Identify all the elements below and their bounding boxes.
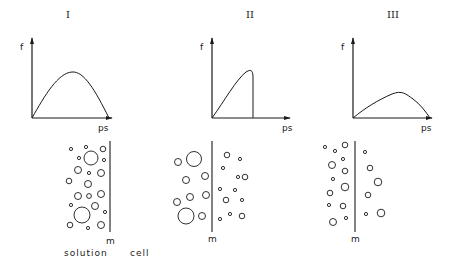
membrane-label: m xyxy=(351,234,360,244)
particles-panel-3 xyxy=(323,141,384,232)
x-axis-label: ps xyxy=(98,123,109,133)
solution-label: solution xyxy=(64,248,108,258)
distribution-curve xyxy=(32,72,109,118)
cell-label: cell xyxy=(130,248,150,258)
panel-1: I f ps xyxy=(20,9,112,133)
panel-numeral: II xyxy=(246,9,254,20)
diagram-canvas: I f ps II f ps III f ps m solution cell xyxy=(0,0,449,269)
y-axis-label: f xyxy=(341,42,345,52)
panel-3: III f ps xyxy=(341,9,432,133)
y-axis-label: f xyxy=(20,42,24,52)
panel-2: II f ps xyxy=(200,9,293,133)
distribution-curve xyxy=(212,70,253,118)
panel-numeral: III xyxy=(387,9,399,20)
membrane-label: m xyxy=(208,234,217,244)
particles-panel-2 xyxy=(174,141,248,232)
x-axis-label: ps xyxy=(282,123,293,133)
y-axis-label: f xyxy=(200,42,204,52)
panel-numeral: I xyxy=(66,9,70,20)
distribution-curve xyxy=(353,92,430,118)
x-axis-label: ps xyxy=(421,123,432,133)
particles-panel-1 xyxy=(66,141,110,232)
membrane-label: m xyxy=(106,236,115,246)
